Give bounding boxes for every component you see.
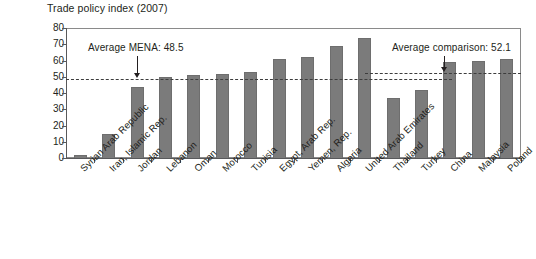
mena-annotation-arrow-shaft	[137, 56, 138, 74]
y-axis-tick-label: 40	[0, 87, 64, 99]
y-axis-tick-mark	[62, 44, 66, 45]
y-axis-tick-label: 80	[0, 22, 64, 34]
y-axis-tick-mark	[62, 93, 66, 94]
bar	[472, 61, 485, 159]
y-axis-tick-label: 20	[0, 120, 64, 132]
mena-annotation-arrow-head-icon	[134, 73, 140, 78]
y-axis-tick-mark	[62, 109, 66, 110]
bar	[358, 38, 371, 158]
y-axis-line	[66, 28, 67, 159]
y-axis-tick-label: 0	[0, 152, 64, 164]
bar	[443, 62, 456, 158]
bar	[216, 74, 229, 159]
comparison-average-annotation-label: Average comparison: 52.1	[392, 42, 511, 53]
y-axis-tick-mark	[62, 61, 66, 62]
y-axis-tick-label: 30	[0, 103, 64, 115]
y-axis-tick-mark	[62, 28, 66, 29]
mena-average-annotation-label: Average MENA: 48.5	[88, 42, 184, 53]
bar	[273, 59, 286, 158]
comparison-annotation-arrow-head-icon	[441, 67, 447, 72]
chart-title: Trade policy index (2007)	[47, 2, 168, 14]
trade-policy-index-chart: Trade policy index (2007) 01020304050607…	[0, 0, 536, 259]
y-axis-tick-label: 60	[0, 55, 64, 67]
y-axis-tick-mark	[62, 142, 66, 143]
y-axis-tick-mark	[62, 158, 66, 159]
mena-average-reference-line	[66, 79, 452, 80]
y-axis-tick-mark	[62, 126, 66, 127]
comparison-average-reference-line	[365, 73, 521, 74]
y-axis-tick-label: 10	[0, 136, 64, 148]
y-axis-tick-label: 70	[0, 38, 64, 50]
y-axis-tick-mark	[62, 77, 66, 78]
y-axis-tick-label: 50	[0, 71, 64, 83]
